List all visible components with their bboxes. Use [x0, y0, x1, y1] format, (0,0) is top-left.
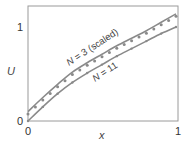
xtick-0: 0 [25, 125, 31, 137]
data-point-marker [138, 36, 141, 39]
data-point-marker [152, 28, 155, 31]
data-point-marker [86, 72, 88, 74]
data-point-marker [160, 32, 162, 34]
data-point-marker [93, 59, 96, 62]
data-point-marker [27, 120, 29, 122]
xtick-1: 1 [175, 125, 181, 137]
data-point-marker [167, 19, 170, 22]
ytick-0: 0 [17, 115, 23, 127]
x-axis-label: x [98, 129, 105, 141]
data-point-marker [145, 40, 147, 42]
data-point-marker [145, 32, 148, 35]
data-point-marker [175, 15, 178, 18]
data-point-marker [108, 51, 111, 54]
data-point-marker [42, 106, 44, 108]
data-point-marker [64, 79, 67, 82]
data-point-marker [116, 55, 118, 57]
data-point-marker [34, 106, 37, 109]
ytick-1: 1 [17, 21, 23, 33]
data-point-marker [71, 73, 74, 76]
data-point-marker [27, 113, 30, 116]
data-point-marker [130, 39, 133, 42]
data-point-marker [86, 64, 89, 67]
data-point-marker [123, 43, 126, 46]
data-point-marker [78, 68, 81, 71]
data-point-marker [41, 99, 44, 102]
data-point-marker [101, 55, 104, 58]
plot-canvas: 1 0 0 1 U x N = 3 (scaled) N = 11 [0, 0, 190, 144]
data-point-marker [49, 92, 52, 95]
data-point-marker [130, 47, 132, 49]
y-axis-label: U [7, 65, 15, 77]
data-point-marker [175, 26, 177, 28]
data-point-marker [160, 23, 163, 26]
data-point-marker [115, 47, 118, 50]
data-point-marker [56, 93, 58, 95]
data-point-marker [56, 85, 59, 88]
data-point-marker [71, 81, 73, 83]
